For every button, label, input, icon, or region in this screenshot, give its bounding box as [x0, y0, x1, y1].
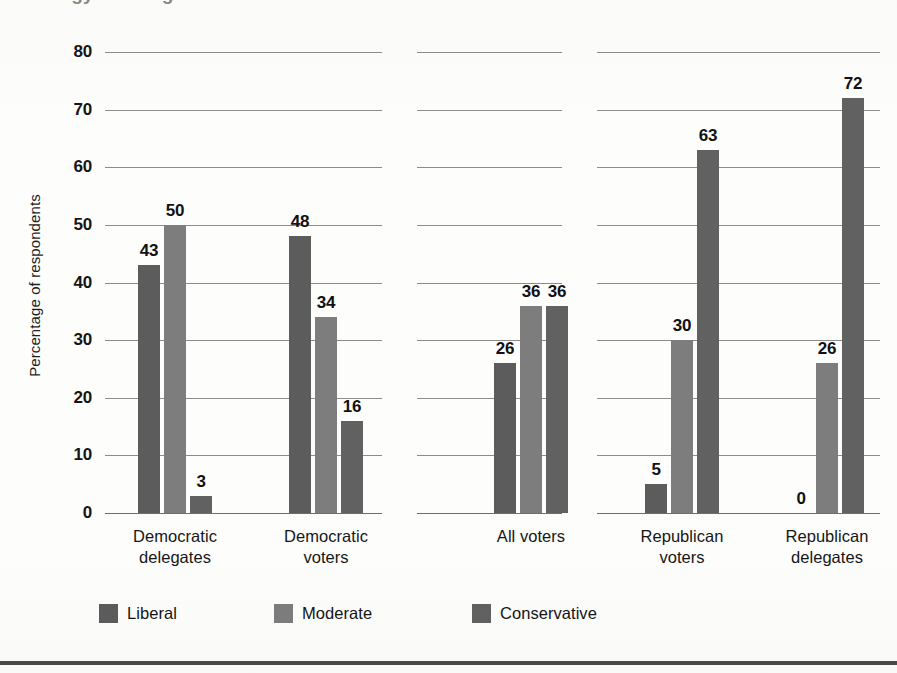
y-axis-tick-label: 70 — [48, 100, 92, 120]
legend-swatch-icon — [99, 604, 118, 623]
bar-value-label: 5 — [651, 460, 660, 480]
gridline — [597, 52, 880, 53]
bar-value-label: 26 — [818, 339, 836, 359]
category-label: Republicanvoters — [640, 526, 723, 568]
category-label-line1: Republican — [640, 526, 723, 547]
y-axis-tick-label: 0 — [48, 503, 92, 523]
plot-area: Percentage of respondents 80706050403020… — [0, 0, 897, 673]
bar-value-label: 72 — [844, 74, 862, 94]
bar-moderate — [315, 317, 337, 513]
gridline — [417, 283, 562, 284]
gridline — [105, 167, 382, 168]
chart-figure: Ideology of delegates and voters Percent… — [0, 0, 897, 673]
legend-label: Moderate — [302, 604, 372, 623]
gridline — [417, 225, 562, 226]
category-label: Democraticvoters — [284, 526, 368, 568]
gridline — [597, 167, 880, 168]
bar-value-label: 26 — [496, 339, 514, 359]
bar-value-label: 63 — [699, 126, 717, 146]
gridline — [105, 225, 382, 226]
bar-value-label: 36 — [548, 282, 566, 302]
legend-swatch-icon — [472, 604, 491, 623]
gridline — [417, 110, 562, 111]
gridline — [417, 52, 562, 53]
gridline — [597, 283, 880, 284]
footer-rule — [0, 661, 897, 665]
category-label: Democraticdelegates — [133, 526, 217, 568]
category-label-line1: Republican — [785, 526, 868, 547]
y-axis-tick-label: 30 — [48, 330, 92, 350]
legend-item-moderate[interactable]: Moderate — [274, 604, 372, 623]
bar-liberal — [289, 236, 311, 513]
bar-conservative — [190, 496, 212, 513]
category-label-line1: Democratic — [133, 526, 217, 547]
bar-value-label: 50 — [166, 201, 184, 221]
bar-value-label: 36 — [522, 282, 540, 302]
y-axis-tick-label: 80 — [48, 42, 92, 62]
bar-moderate — [816, 363, 838, 513]
x-axis-baseline — [105, 513, 382, 514]
bar-conservative — [697, 150, 719, 513]
category-label-line2: voters — [640, 547, 723, 568]
gridline — [597, 225, 880, 226]
chart-legend: LiberalModerateConservative — [0, 604, 897, 634]
category-label-line1: All voters — [497, 526, 565, 547]
category-label: All voters — [497, 526, 565, 547]
x-axis-baseline — [417, 513, 562, 514]
y-axis-tick-label: 10 — [48, 445, 92, 465]
bar-value-label: 48 — [291, 212, 309, 232]
bar-conservative — [546, 306, 568, 513]
bar-conservative — [842, 98, 864, 513]
bar-value-label: 34 — [317, 293, 335, 313]
bar-value-label: 43 — [140, 241, 158, 261]
y-axis-tick-label: 40 — [48, 273, 92, 293]
bar-value-label: 0 — [796, 489, 805, 509]
category-label-line2: delegates — [133, 547, 217, 568]
gridline — [105, 52, 382, 53]
gridline — [597, 110, 880, 111]
gridline — [417, 167, 562, 168]
y-axis-tick-label: 50 — [48, 215, 92, 235]
x-axis-baseline — [597, 513, 880, 514]
legend-item-liberal[interactable]: Liberal — [99, 604, 177, 623]
bar-moderate — [520, 306, 542, 513]
category-label-line1: Democratic — [284, 526, 368, 547]
bar-liberal — [138, 265, 160, 513]
category-label: Republicandelegates — [785, 526, 868, 568]
legend-label: Conservative — [500, 604, 597, 623]
bar-value-label: 3 — [196, 472, 205, 492]
y-axis-title: Percentage of respondents — [26, 156, 43, 416]
bar-value-label: 30 — [673, 316, 691, 336]
gridline — [597, 340, 880, 341]
legend-label: Liberal — [127, 604, 177, 623]
bar-liberal — [494, 363, 516, 513]
bar-moderate — [671, 340, 693, 513]
category-label-line2: delegates — [785, 547, 868, 568]
y-axis-tick-label: 20 — [48, 388, 92, 408]
y-axis-tick-label: 60 — [48, 157, 92, 177]
bar-value-label: 16 — [343, 397, 361, 417]
gridline — [105, 110, 382, 111]
legend-item-conservative[interactable]: Conservative — [472, 604, 597, 623]
bar-liberal — [645, 484, 667, 513]
bar-conservative — [341, 421, 363, 513]
legend-swatch-icon — [274, 604, 293, 623]
category-label-line2: voters — [284, 547, 368, 568]
bar-moderate — [164, 225, 186, 513]
